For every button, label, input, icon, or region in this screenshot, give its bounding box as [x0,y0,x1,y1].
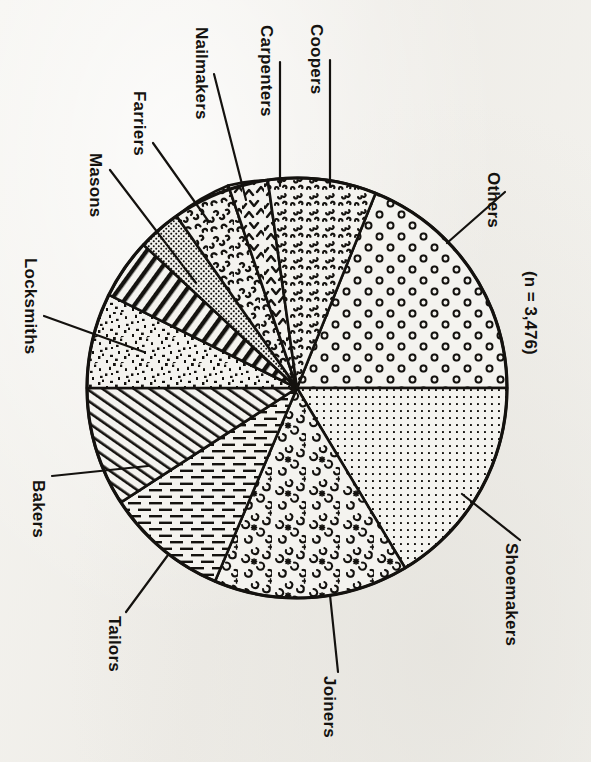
leader-line-tailors [126,555,168,612]
leader-line-nailmakers [214,74,246,200]
pie-label-others: Others [483,172,503,228]
leader-line-shoemakers [462,494,520,540]
leader-line-joiners [330,595,338,672]
pie-label-farriers: Farriers [129,91,149,156]
figure-page: Others (n = 3,476) Shoemakers Joiners Ta… [0,0,591,762]
sample-size-note: (n = 3,476) [520,271,540,355]
pie-label-nailmakers: Nailmakers [191,27,211,120]
pie-label-shoemakers: Shoemakers [501,543,521,646]
pie-label-joiners: Joiners [319,676,339,738]
leader-line-farriers [153,143,209,222]
pie-slices [87,178,507,598]
pie-label-locksmiths: Locksmiths [20,258,40,354]
pie-label-tailors: Tailors [104,616,124,672]
pie-label-carpenters: Carpenters [256,25,276,117]
pie-label-bakers: Bakers [28,480,48,538]
pie-label-coopers: Coopers [306,24,326,94]
pie-chart-figure [0,0,591,762]
pie-label-masons: Masons [85,153,105,218]
